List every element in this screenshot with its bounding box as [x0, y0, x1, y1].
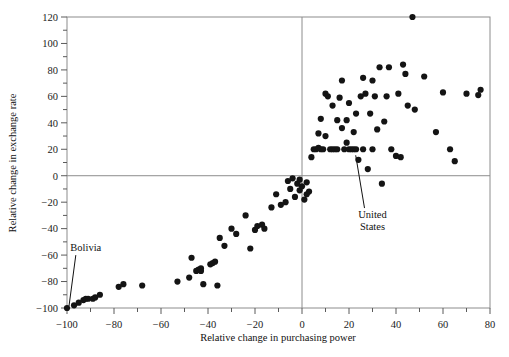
- data-point: [299, 183, 305, 189]
- data-point: [398, 154, 404, 160]
- data-point: [315, 130, 321, 136]
- data-point: [212, 259, 218, 265]
- data-point: [120, 281, 126, 287]
- annotation-label: Bolivia: [70, 242, 101, 253]
- y-tick-label: 100: [42, 38, 58, 49]
- data-point: [452, 158, 458, 164]
- data-point: [379, 181, 385, 187]
- data-point: [376, 64, 382, 70]
- x-tick-label: 80: [485, 319, 496, 330]
- data-point: [322, 133, 328, 139]
- data-point: [337, 95, 343, 101]
- data-point: [339, 77, 345, 83]
- data-point: [308, 154, 314, 160]
- data-point: [174, 278, 180, 284]
- x-tick-label: −80: [106, 319, 122, 330]
- data-point: [188, 255, 194, 261]
- data-point: [346, 100, 352, 106]
- data-point: [320, 146, 326, 152]
- data-point: [304, 179, 310, 185]
- x-tick-label: −20: [247, 319, 263, 330]
- plot-frame: [67, 17, 490, 308]
- data-point: [198, 268, 204, 274]
- data-point: [334, 117, 340, 123]
- data-point: [463, 91, 469, 97]
- data-point: [139, 282, 145, 288]
- data-point: [440, 89, 446, 95]
- data-point: [268, 204, 274, 210]
- data-point: [365, 166, 371, 172]
- y-tick-label: 80: [48, 65, 59, 76]
- y-tick-label: −80: [42, 276, 58, 287]
- data-point: [362, 91, 368, 97]
- data-point: [243, 212, 249, 218]
- data-point: [325, 93, 331, 99]
- data-point: [367, 110, 373, 116]
- annotation-label: States: [360, 221, 385, 232]
- annotation-label: United: [358, 209, 387, 220]
- data-point: [233, 231, 239, 237]
- data-point: [386, 64, 392, 70]
- x-tick-label: −100: [56, 319, 78, 330]
- data-point: [409, 14, 415, 20]
- axis-ticks: [61, 17, 490, 314]
- x-tick-label: −60: [153, 319, 169, 330]
- data-point: [339, 125, 345, 131]
- data-point: [97, 292, 103, 298]
- data-point: [388, 146, 394, 152]
- data-point: [261, 226, 267, 232]
- data-point: [433, 129, 439, 135]
- y-tick-label: 120: [42, 12, 58, 23]
- data-point: [334, 146, 340, 152]
- data-point: [290, 175, 296, 181]
- y-axis-title: Relative change in exchange rate: [7, 93, 18, 232]
- data-point: [412, 106, 418, 112]
- data-point: [360, 146, 366, 152]
- x-tick-label: 60: [438, 319, 449, 330]
- data-point: [329, 103, 335, 109]
- y-tick-label: −100: [36, 303, 58, 314]
- data-point: [400, 62, 406, 68]
- y-tick-label: 60: [48, 91, 59, 102]
- x-tick-label: 40: [391, 319, 402, 330]
- data-points: [64, 14, 484, 311]
- data-point: [421, 73, 427, 79]
- y-tick-label: −20: [42, 197, 58, 208]
- data-point: [353, 110, 359, 116]
- data-point: [200, 281, 206, 287]
- data-point: [292, 194, 298, 200]
- data-point: [353, 146, 359, 152]
- data-point: [221, 243, 227, 249]
- data-point: [447, 146, 453, 152]
- data-point: [287, 186, 293, 192]
- data-point: [344, 117, 350, 123]
- data-point: [372, 93, 378, 99]
- data-point: [395, 91, 401, 97]
- y-tick-label: 20: [48, 144, 59, 155]
- y-tick-label: 0: [53, 171, 58, 182]
- x-tick-label: 20: [344, 319, 355, 330]
- data-point: [273, 191, 279, 197]
- data-point: [351, 129, 357, 135]
- data-point: [405, 103, 411, 109]
- annotations: BoliviaUnitedStates: [69, 155, 388, 306]
- data-point: [297, 177, 303, 183]
- data-point: [478, 87, 484, 93]
- data-point: [306, 189, 312, 195]
- data-point: [360, 75, 366, 81]
- data-point: [384, 93, 390, 99]
- scatter-plot-figure: −100−80−60−40−20020406080−100−80−60−40−2…: [0, 0, 509, 357]
- y-tick-label: −60: [42, 250, 58, 261]
- y-tick-label: −40: [42, 223, 58, 234]
- data-point: [186, 274, 192, 280]
- data-point: [402, 71, 408, 77]
- data-point: [217, 235, 223, 241]
- y-tick-label: 40: [48, 118, 59, 129]
- x-tick-label: −40: [200, 319, 216, 330]
- data-point: [475, 92, 481, 98]
- data-point: [228, 226, 234, 232]
- data-point: [344, 140, 350, 146]
- x-tick-label: 0: [299, 319, 304, 330]
- axis-tick-labels: −100−80−60−40−20020406080−100−80−60−40−2…: [36, 12, 495, 330]
- data-point: [374, 126, 380, 132]
